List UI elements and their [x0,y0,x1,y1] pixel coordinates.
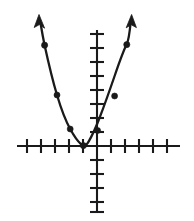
data-point-x-positive-1 [112,93,118,99]
x-axis [17,139,180,153]
parabola-curve-group [41,23,131,146]
data-point-x-negative-4 [42,42,48,48]
plotted-points-group [42,42,130,149]
parabola-curve [41,23,131,146]
y-axis [90,30,104,212]
data-point-x-zero [95,128,101,134]
left-branch-arrow-icon [34,15,44,29]
data-point-x-positive-2 [124,42,130,48]
coordinate-plane-svg [0,0,194,221]
data-point-x-negative-3 [54,92,60,98]
parabola-graph-figure [0,0,194,221]
data-point-vertex [80,143,86,149]
arrowheads-group [34,15,136,29]
data-point-x-negative-2 [67,126,73,132]
